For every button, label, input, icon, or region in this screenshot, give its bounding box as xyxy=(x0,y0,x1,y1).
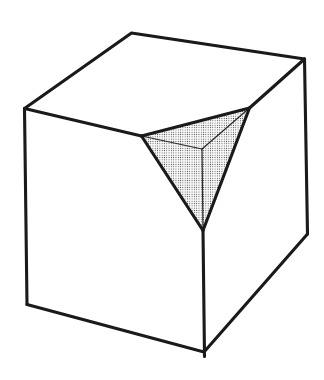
cube-figure xyxy=(0,0,324,380)
cube-line-art xyxy=(0,0,324,380)
page xyxy=(0,0,324,380)
cube-front-vertical-edge xyxy=(203,231,205,357)
